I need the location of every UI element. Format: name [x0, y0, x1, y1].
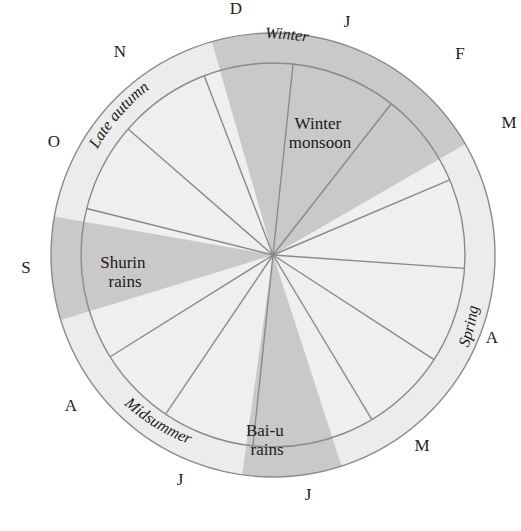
month-label-j1: J	[344, 12, 351, 31]
month-label-a1: A	[486, 328, 499, 347]
month-label-j2: J	[305, 485, 312, 504]
month-label-s: S	[21, 258, 30, 277]
month-label-d: D	[230, 0, 242, 18]
month-label-f: F	[455, 44, 464, 63]
month-label-m2: M	[414, 436, 429, 455]
month-label-n: N	[114, 42, 126, 61]
wedge-label-winter-monsoon: Winter monsoon	[289, 114, 352, 152]
month-label-o: O	[48, 132, 60, 151]
month-label-m1: M	[501, 113, 516, 132]
seasonal-wheel-diagram: Winter Late autumn Spring Midsummer Wint…	[0, 0, 521, 531]
month-label-j3: J	[177, 470, 184, 489]
month-label-a2: A	[65, 396, 78, 415]
wedge-label-bai-u-rains: Bai-u rains	[246, 421, 288, 459]
